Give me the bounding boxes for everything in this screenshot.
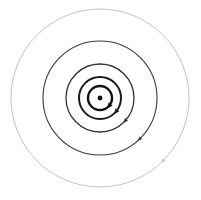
center-dot bbox=[98, 96, 103, 101]
orbit-diagram bbox=[0, 0, 201, 200]
concentric-rings-graphic bbox=[0, 0, 201, 200]
